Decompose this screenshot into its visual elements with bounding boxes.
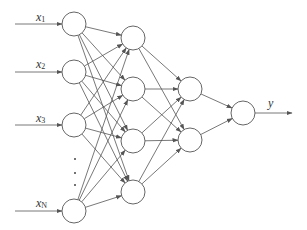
input-node <box>62 199 86 223</box>
input-label-x1: x1 <box>36 11 45 24</box>
connection-edge <box>84 95 123 118</box>
input-label-xN: xN <box>36 197 47 210</box>
connection-edge <box>201 118 233 134</box>
hidden1-node <box>121 77 145 101</box>
input-node <box>62 12 86 36</box>
connection-edge <box>201 94 232 108</box>
connection-edge <box>79 83 127 181</box>
ellipsis-dot <box>74 158 76 160</box>
hidden2-node <box>178 128 202 152</box>
ellipsis-dot <box>74 172 76 174</box>
input-label-x3: x3 <box>36 112 45 125</box>
input-node <box>62 60 86 84</box>
hidden1-node <box>121 129 145 153</box>
input-node <box>62 113 86 137</box>
network-canvas <box>0 0 307 230</box>
neural-network-diagram: x1x2x3xNy <box>0 0 307 230</box>
hidden1-node <box>121 26 145 50</box>
connection-edge <box>84 44 122 66</box>
connection-edge <box>86 75 122 85</box>
output-label-y: y <box>268 97 273 109</box>
hidden2-node <box>178 77 202 101</box>
connection-edge <box>86 27 122 35</box>
ellipsis-dot <box>74 184 76 186</box>
connection-edge <box>81 48 127 115</box>
input-label-x2: x2 <box>36 58 45 71</box>
connection-edge <box>142 46 181 81</box>
connection-edge <box>85 196 121 208</box>
connection-edge <box>79 100 128 200</box>
hidden1-node <box>121 180 145 204</box>
connection-edge <box>86 128 122 138</box>
output-node <box>231 101 255 125</box>
connection-edge <box>82 33 125 80</box>
